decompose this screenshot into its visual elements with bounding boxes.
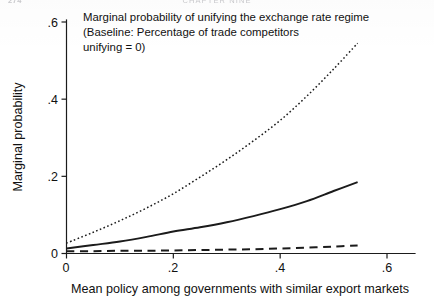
annotation-line-3: unifying = 0) [83, 41, 146, 53]
x-tick-label-2: .4 [275, 261, 285, 275]
figure-container: 274 CHAPTER NINE .6 .4 .2 0 0 .2 .4 .6 M… [0, 0, 434, 298]
x-tick-label-0: 0 [63, 261, 70, 275]
y-axis-title: Marginal probability [11, 82, 25, 192]
y-tick-label-3: .6 [48, 16, 58, 30]
annotation-line-2: (Baseline: Percentage of trade competito… [83, 26, 299, 38]
chart-plot: .6 .4 .2 0 0 .2 .4 .6 Marginal probabili… [0, 0, 434, 298]
annotation-line-1: Marginal probability of unifying the exc… [83, 11, 369, 23]
x-axis-title: Mean policy among governments with simil… [71, 282, 409, 296]
x-tick-label-3: .6 [382, 261, 392, 275]
x-axis-ticks [67, 254, 388, 259]
x-tick-label-1: .2 [168, 261, 178, 275]
series-line-lower [67, 245, 358, 251]
y-tick-label-0: 0 [51, 247, 58, 261]
series-line-point-estimate [67, 182, 358, 248]
y-tick-label-1: .2 [48, 170, 58, 184]
series-line-upper [67, 43, 358, 243]
y-axis-ticks [62, 22, 67, 254]
y-tick-label-2: .4 [48, 93, 58, 107]
